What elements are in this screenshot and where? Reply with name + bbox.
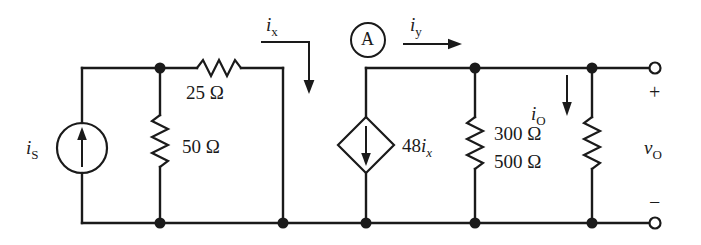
label-dependent-sub: x [426, 145, 432, 160]
label-resistor-500: 500 Ω [494, 152, 541, 171]
resistor-300-zigzag [467, 117, 483, 169]
label-voltage-vo-sub: O [652, 147, 661, 162]
current-ix-arrow-head [304, 80, 315, 94]
current-ix-arrow-shaft [262, 42, 309, 82]
label-current-ix: ix [266, 15, 278, 38]
label-resistor-300: 300 Ω [494, 124, 541, 143]
resistor-500-zigzag [584, 117, 600, 169]
label-voltage-vo: vO [644, 138, 662, 161]
circuit-diagram: iS 50 Ω 25 Ω ix A iy 48ix 300 Ω 500 Ω iO… [0, 0, 701, 245]
label-terminal-plus: + [649, 82, 660, 102]
node-dot-top-c [587, 63, 598, 74]
schematic-svg [0, 0, 701, 245]
current-source-arrow-head [77, 127, 87, 140]
node-dot-top-b [470, 63, 481, 74]
node-dot-bottom-a [155, 218, 166, 229]
label-source-is: iS [26, 138, 39, 161]
label-terminal-minus: − [649, 192, 660, 212]
label-current-io-sub: O [536, 113, 545, 128]
label-resistor-50: 50 Ω [182, 137, 220, 156]
label-current-iy: iy [410, 15, 422, 38]
label-resistor-25: 25 Ω [186, 83, 224, 102]
resistor-25-zigzag [197, 60, 241, 76]
current-io-arrow-head [562, 102, 572, 116]
dependent-source-arrow-head [361, 153, 371, 166]
output-terminal-negative [650, 218, 661, 229]
node-dot-bottom-d [470, 218, 481, 229]
label-current-iy-sub: y [415, 24, 422, 39]
resistor-50-zigzag [152, 115, 168, 167]
output-terminal-positive [650, 63, 661, 74]
node-dot-bottom-e [587, 218, 598, 229]
current-iy-arrow-head [448, 39, 462, 49]
node-dot-top-a [155, 63, 166, 74]
label-current-io: iO [531, 104, 546, 127]
node-dot-bottom-c [361, 218, 372, 229]
label-current-ix-sub: x [271, 24, 278, 39]
label-ammeter: A [361, 30, 374, 48]
label-source-is-sub: S [31, 147, 38, 162]
label-dependent-source: 48ix [402, 136, 432, 159]
label-dependent-gain: 48 [402, 135, 421, 156]
node-dot-bottom-b [278, 218, 289, 229]
